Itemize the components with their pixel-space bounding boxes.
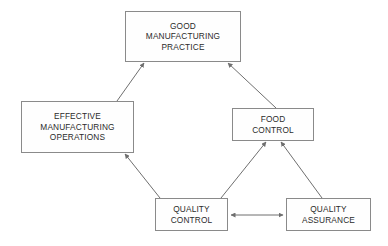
connector-qc-to-fc — [221, 142, 266, 198]
node-label-effective-manufacturing-operations: EFFECTIVE MANUFACTURING OPERATIONS — [22, 111, 133, 143]
node-food-control: FOOD CONTROL — [232, 108, 314, 141]
node-quality-control: QUALITY CONTROL — [155, 198, 228, 231]
node-quality-assurance: QUALITY ASSURANCE — [286, 198, 371, 231]
connector-qc-to-emo — [125, 154, 160, 198]
node-effective-manufacturing-operations: EFFECTIVE MANUFACTURING OPERATIONS — [21, 101, 134, 153]
node-label-quality-assurance: QUALITY ASSURANCE — [287, 204, 370, 225]
connector-qa-to-fc — [281, 142, 322, 198]
node-label-quality-control: QUALITY CONTROL — [156, 204, 227, 225]
node-good-manufacturing-practice: GOOD MANUFACTURING PRACTICE — [125, 11, 241, 62]
connector-emo-to-gmp — [117, 63, 144, 101]
node-label-good-manufacturing-practice: GOOD MANUFACTURING PRACTICE — [126, 21, 240, 53]
node-label-food-control: FOOD CONTROL — [233, 114, 313, 135]
connector-fc-to-gmp — [228, 63, 276, 108]
diagram-canvas: GOOD MANUFACTURING PRACTICE EFFECTIVE MA… — [0, 0, 388, 246]
